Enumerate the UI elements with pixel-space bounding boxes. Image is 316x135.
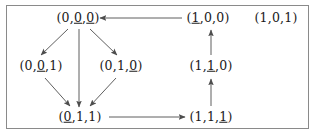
node-digit-1: 1 <box>195 109 203 124</box>
node-0-0u-0u: (0,0,0) <box>57 12 100 25</box>
node-close-paren: ) <box>94 10 99 25</box>
node-0-0u-1: (0,0,1) <box>20 60 63 73</box>
node-close-paren: ) <box>227 109 232 124</box>
edge-000-to-001 <box>41 29 68 55</box>
node-close-paren: ) <box>137 58 142 73</box>
node-close-paren: ) <box>227 58 232 73</box>
node-0-1-0u: (0,1,0) <box>100 60 143 73</box>
node-digit-3-underlined: 0 <box>129 58 137 73</box>
node-digit-1: 1 <box>260 10 268 25</box>
node-digit-1: 0 <box>25 58 33 73</box>
node-digit-3: 1 <box>49 58 57 73</box>
node-close-paren: ) <box>224 10 229 25</box>
node-digit-1: 0 <box>105 58 113 73</box>
node-digit-3: 0 <box>219 58 227 73</box>
figure-container: (0,0,0)(1,0,0)(1,0,1)(0,0,1)(0,1,0)(1,1,… <box>0 0 316 135</box>
node-digit-2: 1 <box>76 109 84 124</box>
node-digit-2-underlined: 1 <box>207 58 215 73</box>
node-digit-2-underlined: 0 <box>37 58 45 73</box>
edge-000-to-010 <box>90 29 117 55</box>
edge-001-to-011 <box>45 78 70 106</box>
node-1u-0-0: (1,0,0) <box>187 12 230 25</box>
node-1-0-1: (1,0,1) <box>255 12 298 25</box>
node-digit-2: 1 <box>207 109 215 124</box>
node-digit-1: 0 <box>62 10 70 25</box>
edge-010-to-011 <box>90 78 116 106</box>
node-digit-1-underlined: 0 <box>64 109 72 124</box>
node-digit-3-underlined: 0 <box>86 10 94 25</box>
node-digit-2: 1 <box>117 58 125 73</box>
node-digit-2: 0 <box>272 10 280 25</box>
node-1-1-1u: (1,1,1) <box>190 111 233 124</box>
node-close-paren: ) <box>292 10 297 25</box>
node-digit-2-underlined: 0 <box>74 10 82 25</box>
node-close-paren: ) <box>96 109 101 124</box>
node-0u-1-1: (0,1,1) <box>59 111 102 124</box>
node-digit-1-underlined: 1 <box>192 10 200 25</box>
node-1-1u-0: (1,1,0) <box>190 60 233 73</box>
node-digit-1: 1 <box>195 58 203 73</box>
node-digit-2: 0 <box>204 10 212 25</box>
node-digit-3: 1 <box>284 10 292 25</box>
node-digit-3-underlined: 1 <box>219 109 227 124</box>
node-close-paren: ) <box>57 58 62 73</box>
node-digit-3: 1 <box>88 109 96 124</box>
node-digit-3: 0 <box>216 10 224 25</box>
